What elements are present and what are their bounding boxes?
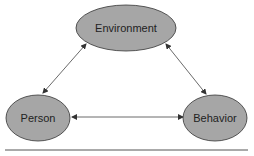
edge-person-environment bbox=[43, 44, 86, 93]
node-behavior-label: Behavior bbox=[193, 112, 237, 124]
node-environment-label: Environment bbox=[95, 22, 157, 34]
diagram-canvas: Environment Person Behavior bbox=[0, 0, 254, 156]
node-person-label: Person bbox=[21, 112, 56, 124]
node-environment: Environment bbox=[76, 5, 176, 51]
node-person: Person bbox=[6, 95, 70, 141]
node-behavior: Behavior bbox=[183, 95, 247, 141]
edge-environment-behavior bbox=[166, 44, 206, 94]
